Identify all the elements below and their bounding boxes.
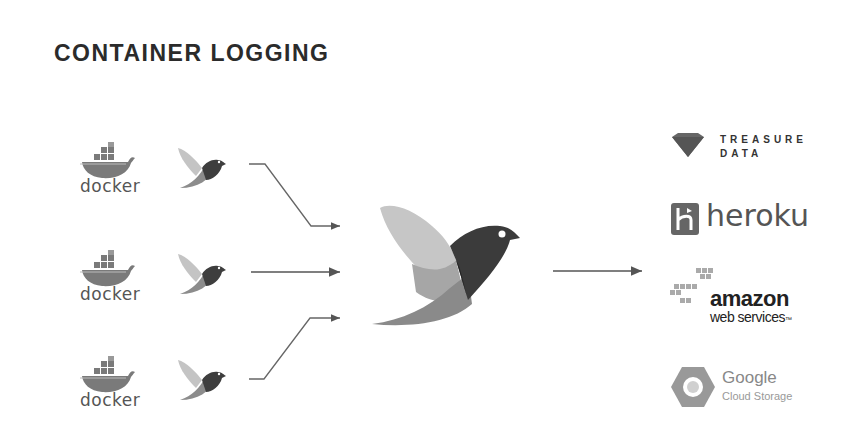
treasure-data-line1: TREASURE bbox=[720, 133, 807, 147]
arrow-source-3 bbox=[249, 318, 340, 379]
gcs-hexagon-icon bbox=[670, 365, 716, 409]
heroku-logo-icon bbox=[671, 203, 699, 235]
heroku-label: heroku bbox=[706, 198, 809, 233]
treasure-data-line2: DATA bbox=[720, 147, 762, 161]
arrow-source-1 bbox=[249, 164, 340, 226]
gcs-line2: Cloud Storage bbox=[722, 390, 792, 402]
treasure-data-gem-icon bbox=[670, 133, 706, 159]
aws-line2: web services™ bbox=[710, 309, 791, 325]
fluentd-bird-large-icon bbox=[372, 204, 532, 334]
gcs-line1: Google bbox=[722, 368, 777, 388]
aws-line2-text: web services bbox=[710, 309, 785, 325]
aws-tm: ™ bbox=[785, 316, 792, 323]
